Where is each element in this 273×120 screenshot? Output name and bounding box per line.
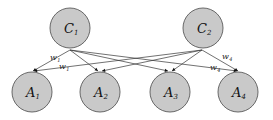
node-c2: C2	[183, 8, 223, 48]
weight-label: w4	[210, 63, 221, 73]
node-a1: A1	[12, 72, 52, 112]
node-c1: C1	[50, 8, 90, 48]
arrowhead-icon	[102, 69, 105, 72]
node-a3: A3	[150, 72, 190, 112]
bipartite-diagram: w1w1w4w4 C1C2A1A2A3A4	[0, 0, 273, 120]
weight-label: w1	[59, 62, 70, 72]
node-a2: A2	[80, 72, 120, 112]
weight-label: w4	[222, 52, 233, 62]
arrowhead-icon	[165, 69, 168, 72]
node-a4: A4	[218, 72, 258, 112]
arrowhead-icon	[172, 68, 176, 71]
arrowhead-icon	[94, 68, 98, 71]
